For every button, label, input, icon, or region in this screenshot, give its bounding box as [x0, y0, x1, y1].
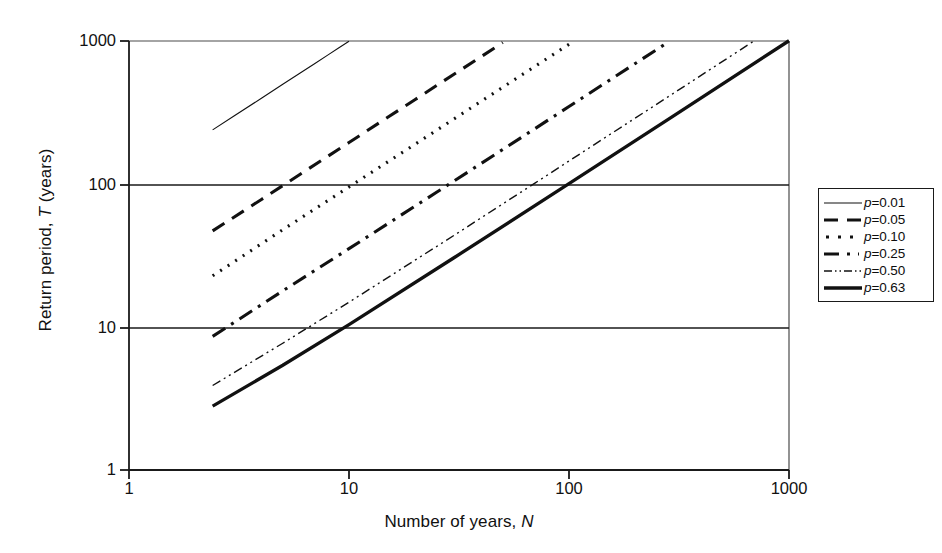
legend-value-4: 0.50 [879, 263, 905, 278]
legend-label-p-001: p=0.01 [863, 195, 905, 210]
legend-label-p-025: p=0.25 [863, 246, 905, 261]
legend-swatch-p-050 [823, 264, 863, 278]
series-line-0-63 [213, 41, 789, 406]
legend-item-p-001: p=0.01 [823, 194, 929, 211]
legend-swatch-p-025 [823, 247, 863, 261]
legend-item-p-050: p=0.50 [823, 262, 929, 279]
legend-label-p-050: p=0.50 [863, 263, 905, 278]
legend-item-p-005: p=0.05 [823, 211, 929, 228]
legend-label-p-005: p=0.05 [863, 212, 905, 227]
legend-label-p-010: p=0.10 [863, 229, 905, 244]
legend-label-p-063: p=0.63 [863, 280, 905, 295]
series-line-0-25 [213, 43, 668, 337]
legend-value-2: 0.10 [879, 229, 905, 244]
plot-area [0, 0, 942, 553]
legend-value-5: 0.63 [879, 280, 905, 295]
legend-value-0: 0.01 [879, 195, 905, 210]
legend-item-p-025: p=0.25 [823, 245, 929, 262]
legend-item-p-010: p=0.10 [823, 228, 929, 245]
legend-item-p-063: p=0.63 [823, 279, 929, 296]
legend-value-3: 0.25 [879, 246, 905, 261]
legend: p=0.01 p=0.05 p=0.10 p=0.25 p=0.50 [818, 188, 934, 302]
legend-swatch-p-010 [823, 230, 863, 244]
series-line-0-05 [213, 43, 503, 231]
series-layer [213, 41, 789, 406]
legend-swatch-p-005 [823, 213, 863, 227]
series-line-0-01 [213, 41, 349, 130]
legend-value-1: 0.05 [879, 212, 905, 227]
chart-figure: Return period, T (years) Number of years… [0, 0, 942, 553]
legend-swatch-p-063 [823, 281, 863, 295]
legend-swatch-p-001 [823, 196, 863, 210]
series-line-0-50 [213, 41, 754, 385]
series-line-0-10 [213, 44, 569, 276]
